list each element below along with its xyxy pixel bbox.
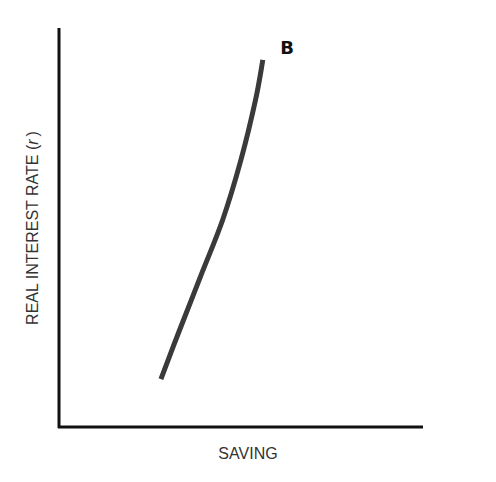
saving-supply-curve [161, 60, 263, 379]
y-axis-label: REAL INTEREST RATE (r) [24, 131, 41, 325]
chart: B SAVING REAL INTEREST RATE (r) [0, 0, 496, 482]
x-axis-label: SAVING [218, 445, 277, 462]
panel-label: B [280, 37, 294, 58]
